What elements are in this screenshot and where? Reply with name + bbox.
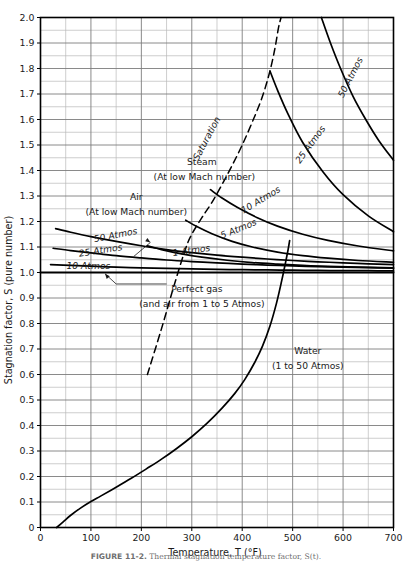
y-tick-label: 1.3 (20, 190, 35, 201)
y-tick-label: 1.4 (20, 165, 35, 176)
y-tick-label: 2.0 (20, 12, 35, 23)
y-tick-label: 0.8 (20, 318, 35, 329)
annotation-steam-title: Steam (187, 156, 217, 167)
x-tick-label: 400 (233, 532, 251, 543)
y-tick-label: 1.5 (20, 139, 35, 150)
annotation-label-perfect-gas-1: Perfect gas (171, 283, 223, 294)
y-tick-label: 0 (29, 522, 35, 533)
y-tick-label: 1.0 (20, 267, 35, 278)
y-axis-tick-labels: 00.10.20.30.40.50.60.70.80.91.01.11.21.3… (20, 12, 35, 533)
y-tick-label: 0.6 (20, 369, 35, 380)
annotation-label-air-10: 10 Atmos (66, 260, 110, 271)
stagnation-factor-chart: 0100200300400500600700 00.10.20.30.40.50… (0, 0, 412, 564)
y-tick-label: 0.7 (20, 343, 35, 354)
y-tick-label: 1.8 (20, 63, 35, 74)
y-tick-label: 0.3 (20, 445, 35, 456)
y-tick-label: 0.2 (20, 471, 35, 482)
x-tick-label: 500 (284, 532, 302, 543)
annotation-label-perfect-gas-2: (and air from 1 to 5 Atmos) (139, 298, 264, 309)
figure-caption-text: Thermal stagnation temperature factor, S… (149, 552, 321, 561)
y-tick-label: 1.7 (20, 88, 35, 99)
figure-container: 0100200300400500600700 00.10.20.30.40.50… (0, 0, 412, 564)
y-tick-label: 1.2 (20, 216, 35, 227)
y-axis-label: Stagnation factor, S (pure number) (3, 216, 14, 384)
annotation-water-subtitle: (1 to 50 Atmos) (272, 360, 344, 371)
x-tick-label: 100 (82, 532, 100, 543)
y-tick-label: 0.5 (20, 394, 35, 405)
figure-caption: FIGURE 11-2. Thermal stagnation temperat… (0, 552, 412, 561)
y-tick-label: 1.6 (20, 114, 35, 125)
y-tick-label: 1.1 (20, 241, 35, 252)
annotation-steam-subtitle: (At low Mach number) (154, 171, 256, 182)
y-tick-label: 0.1 (20, 496, 35, 507)
y-tick-label: 0.4 (20, 420, 35, 431)
y-tick-label: 1.9 (20, 37, 35, 48)
annotation-water-title: Water (294, 345, 321, 356)
x-tick-label: 600 (334, 532, 352, 543)
annotation-air-subtitle: (At low Mach number) (85, 206, 187, 217)
x-tick-label: 200 (132, 532, 150, 543)
x-tick-label: 0 (38, 532, 44, 543)
x-tick-label: 300 (183, 532, 201, 543)
annotation-air-title: Air (130, 191, 143, 202)
y-tick-label: 0.9 (20, 292, 35, 303)
figure-caption-label: FIGURE 11-2. (91, 552, 147, 561)
x-tick-label: 700 (385, 532, 403, 543)
